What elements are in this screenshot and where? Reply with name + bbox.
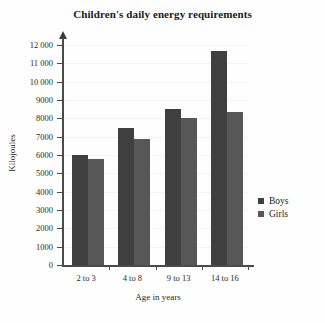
legend-label: Boys [269,196,289,206]
y-axis-tick [57,45,63,46]
y-axis-tick-label: 4000 [0,188,53,197]
y-axis-tick [57,82,63,83]
y-axis-tick [57,118,63,119]
gridline [63,45,248,46]
y-axis-tick-label: 2000 [0,224,53,233]
y-axis-tick-label: 12 000 [0,41,53,50]
legend-swatch-icon [258,198,264,204]
y-axis-tick [57,228,63,229]
y-axis-tick-label: 11 000 [0,59,53,68]
bar-boys-4-to-8 [118,128,134,266]
y-axis-tick [57,173,63,174]
y-axis-title: Kilojoules [7,118,17,188]
x-axis-tick-label: 14 to 16 [197,274,253,283]
bar-girls-4-to-8 [134,139,150,265]
bar-boys-9-to-13 [165,109,181,265]
y-axis-tick [57,100,63,101]
y-axis-tick [57,192,63,193]
y-axis-tick [57,63,63,64]
x-axis-tick [156,265,157,270]
bar-boys-14-to-16 [211,51,227,266]
y-axis-tick [57,247,63,248]
bar-boys-2-to-3 [72,155,88,265]
y-axis-tick [57,137,63,138]
x-axis-tick [109,265,110,270]
legend-item-boys[interactable]: Boys [258,196,320,206]
y-axis-tick [57,210,63,211]
bar-girls-2-to-3 [88,159,104,265]
y-axis-line [62,38,64,266]
x-axis-title: Age in years [63,292,253,302]
bar-girls-14-to-16 [227,112,243,265]
y-axis-tick-label: 3000 [0,206,53,215]
legend-item-girls[interactable]: Girls [258,209,320,219]
chart-title: Children's daily energy requirements [0,8,325,20]
x-axis-tick [202,265,203,270]
y-axis-tick-label: 9000 [0,96,53,105]
x-axis-line [62,265,254,267]
legend: BoysGirls [258,196,320,222]
legend-label: Girls [269,209,288,219]
y-axis-tick [57,265,63,266]
y-axis-tick-label: 0 [0,261,53,270]
bar-chart: Children's daily energy requirements 010… [0,0,325,323]
legend-swatch-icon [258,211,264,217]
x-axis-tick [248,265,249,270]
y-axis-tick-label: 1000 [0,243,53,252]
bar-girls-9-to-13 [181,118,197,265]
y-axis-tick [57,155,63,156]
y-axis-tick-label: 10 000 [0,78,53,87]
plot-area [63,45,248,265]
